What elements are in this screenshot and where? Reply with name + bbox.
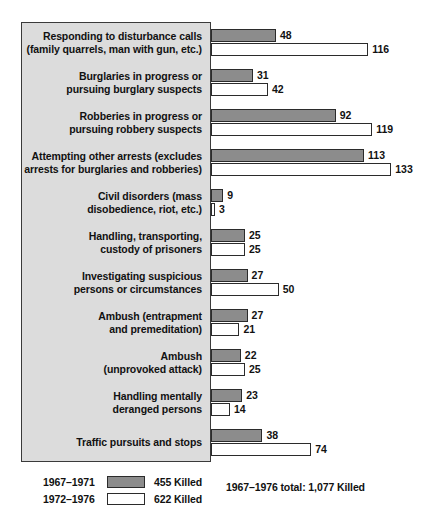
chart-legend: 1967–1971 455 Killed 1972–1976 622 Kille… <box>43 473 202 507</box>
legend-total-series-b: 622 Killed <box>154 493 202 505</box>
category-label-line: deranged persons <box>24 403 202 416</box>
category-label-line: Handling mentally <box>24 390 202 403</box>
bar-series-a <box>211 389 242 402</box>
bar-chart: Responding to disturbance calls(family q… <box>0 0 438 518</box>
category-label-line: Burglaries in progress or <box>24 70 202 83</box>
bar-value-label: 116 <box>372 42 389 56</box>
bar-value-label: 119 <box>376 122 393 136</box>
bar-series-a <box>211 269 248 282</box>
category-label-line: custody of prisoners <box>24 243 202 256</box>
bar-value-label: 27 <box>252 268 264 282</box>
category-label-line: Handling, transporting, <box>24 230 202 243</box>
bar-value-label: 27 <box>252 308 264 322</box>
bar-series-a <box>211 189 223 202</box>
category-label: Ambush(unprovoked attack) <box>24 350 202 375</box>
legend-row-series-a: 1967–1971 455 Killed <box>43 473 202 490</box>
category-label: Handling, transporting,custody of prison… <box>24 230 202 255</box>
bar-value-label: 42 <box>272 82 284 96</box>
plot-area: 4811631429211911313393252527502721222523… <box>211 22 438 462</box>
category-label-line: Traffic pursuits and stops <box>24 436 202 449</box>
legend-period-series-a: 1967–1971 <box>43 476 105 488</box>
bar-series-b <box>211 363 245 376</box>
grand-total-note: 1967–1976 total: 1,077 Killed <box>226 481 365 493</box>
bar-value-label: 50 <box>283 282 295 296</box>
legend-row-series-b: 1972–1976 622 Killed <box>43 490 202 507</box>
bar-series-b <box>211 323 239 336</box>
bar-value-label: 92 <box>340 108 352 122</box>
category-label-line: persons or circumstances <box>24 283 202 296</box>
category-label: Civil disorders (massdisobedience, riot,… <box>24 190 202 215</box>
bar-value-label: 48 <box>280 28 292 42</box>
bar-value-label: 25 <box>249 242 261 256</box>
legend-period-series-b: 1972–1976 <box>43 493 105 505</box>
legend-swatch-series-a <box>107 476 145 488</box>
bar-value-label: 133 <box>395 162 413 176</box>
bar-series-a <box>211 149 364 162</box>
category-label-line: disobedience, riot, etc.) <box>24 203 202 216</box>
bar-series-b <box>211 163 391 176</box>
category-label-line: Attempting other arrests (excludes <box>24 150 202 163</box>
bar-series-b <box>211 403 230 416</box>
category-label: Handling mentallyderanged persons <box>24 390 202 415</box>
bar-value-label: 25 <box>249 228 261 242</box>
bar-value-label: 31 <box>257 68 269 82</box>
category-label-line: pursuing robbery suspects <box>24 123 202 136</box>
category-label: Ambush (entrapmentand premeditation) <box>24 310 202 335</box>
bar-series-b <box>211 83 268 96</box>
category-label: Investigating suspiciouspersons or circu… <box>24 270 202 295</box>
bar-value-label: 113 <box>368 148 385 162</box>
bar-series-a <box>211 309 248 322</box>
bar-series-b <box>211 443 311 456</box>
bar-value-label: 3 <box>219 202 225 216</box>
category-label-line: (family quarrels, man with gun, etc.) <box>24 43 202 56</box>
category-label: Burglaries in progress orpursuing burgla… <box>24 70 202 95</box>
bar-value-label: 14 <box>234 402 246 416</box>
category-label-line: Civil disorders (mass <box>24 190 202 203</box>
category-label-line: Investigating suspicious <box>24 270 202 283</box>
bar-series-a <box>211 229 245 242</box>
bar-value-label: 38 <box>266 428 278 442</box>
bar-series-b <box>211 43 368 56</box>
category-label-line: Responding to disturbance calls <box>24 30 202 43</box>
category-label-line: Ambush <box>24 350 202 363</box>
category-label: Attempting other arrests (excludesarrest… <box>24 150 202 175</box>
bar-series-a <box>211 429 262 442</box>
category-label-line: arrests for burglaries and robberies) <box>24 163 202 176</box>
category-label-line: Robberies in progress or <box>24 110 202 123</box>
bar-series-a <box>211 69 253 82</box>
category-label-line: pursuing burglary suspects <box>24 83 202 96</box>
bar-value-label: 9 <box>227 188 233 202</box>
category-label-line: and premeditation) <box>24 323 202 336</box>
legend-total-series-a: 455 Killed <box>154 476 202 488</box>
category-label-line: Ambush (entrapment <box>24 310 202 323</box>
category-label-panel: Responding to disturbance calls(family q… <box>21 22 211 462</box>
bar-value-label: 74 <box>315 442 327 456</box>
bar-value-label: 21 <box>243 322 255 336</box>
bar-series-a <box>211 109 336 122</box>
bar-series-b <box>211 123 372 136</box>
bar-value-label: 25 <box>249 362 261 376</box>
category-label-line: (unprovoked attack) <box>24 363 202 376</box>
bar-value-label: 22 <box>245 348 257 362</box>
category-label: Robberies in progress orpursuing robbery… <box>24 110 202 135</box>
bar-series-a <box>211 29 276 42</box>
legend-swatch-series-b <box>107 493 145 505</box>
bar-value-label: 23 <box>246 388 258 402</box>
category-label: Traffic pursuits and stops <box>24 436 202 449</box>
bar-series-a <box>211 349 241 362</box>
bar-series-b <box>211 283 279 296</box>
bar-series-b <box>211 243 245 256</box>
category-label: Responding to disturbance calls(family q… <box>24 30 202 55</box>
bar-series-b <box>211 203 215 216</box>
